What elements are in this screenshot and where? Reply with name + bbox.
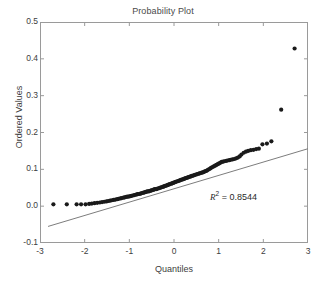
y-axis-title: Ordered Values (14, 62, 24, 172)
page-title: Probability Plot (0, 6, 326, 16)
x-tick-label: -1 (116, 246, 142, 256)
x-tick-label: 3 (295, 246, 321, 256)
y-tick-label: 0.0 (4, 200, 38, 210)
x-tick-label: 1 (206, 246, 232, 256)
y-tick-label: 0.5 (4, 16, 38, 26)
x-tick-label: -3 (27, 246, 53, 256)
r-squared-annotation: R2 = 0.8544 (210, 190, 257, 202)
x-tick-label: -2 (72, 246, 98, 256)
x-axis-title: Quantiles (40, 264, 308, 274)
r-squared-value: 0.8544 (229, 192, 257, 202)
r-squared-equals: = (219, 192, 229, 202)
x-tick-label: 0 (161, 246, 187, 256)
plot-axes-frame (40, 22, 308, 243)
probability-plot-figure: Probability Plot -0.10.00.10.20.30.40.5 … (0, 0, 326, 287)
x-tick-label: 2 (250, 246, 276, 256)
